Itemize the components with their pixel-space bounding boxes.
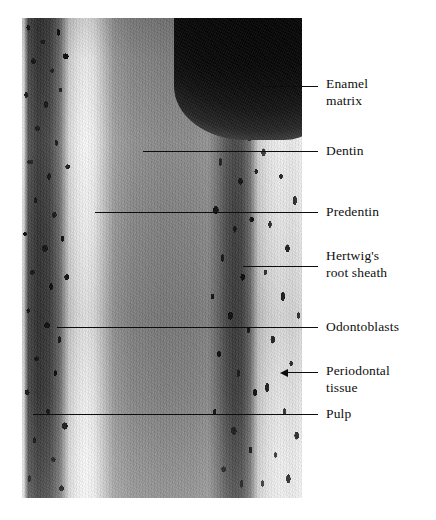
label-predentin: Predentin — [326, 204, 379, 221]
leader-line-enamel-matrix — [262, 86, 318, 87]
leader-line-predentin — [95, 212, 318, 213]
vignette-layer — [22, 18, 302, 498]
leader-line-pulp — [33, 414, 318, 415]
label-periodontal-tissue: Periodontal tissue — [326, 363, 390, 396]
label-odontoblasts: Odontoblasts — [326, 319, 399, 336]
histology-figure: Enamel matrixDentinPredentinHertwig's ro… — [0, 0, 436, 520]
leader-line-periodontal-tissue — [288, 372, 318, 373]
leader-line-hertwigs-root-sheath — [243, 266, 318, 267]
leader-line-odontoblasts — [57, 327, 318, 328]
label-enamel-matrix: Enamel matrix — [326, 76, 368, 109]
arrowhead-periodontal-tissue — [280, 369, 288, 377]
label-hertwigs-root-sheath: Hertwig's root sheath — [326, 248, 387, 281]
label-pulp: Pulp — [326, 406, 351, 423]
label-dentin: Dentin — [326, 143, 364, 160]
micrograph-image — [22, 18, 302, 498]
leader-line-dentin — [143, 151, 318, 152]
